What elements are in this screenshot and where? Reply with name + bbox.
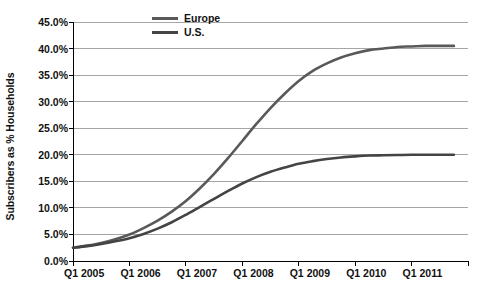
legend-label-us: U.S. (184, 27, 204, 38)
axis-ticks (69, 22, 468, 266)
legend-swatch-us (152, 31, 178, 34)
legend-item-europe[interactable]: Europe (152, 12, 238, 25)
legend-swatch-europe (152, 17, 178, 20)
gridlines (73, 22, 468, 234)
axis-lines (73, 22, 468, 261)
plot-area (0, 0, 477, 293)
data-series-lines (73, 46, 454, 248)
series-line-europe (73, 46, 454, 248)
legend-item-us[interactable]: U.S. (152, 26, 238, 39)
legend-label-europe: Europe (184, 13, 220, 24)
line-chart: Subscribers as % Households 45.0%40.0%35… (0, 0, 477, 293)
chart-legend: Europe U.S. (152, 12, 238, 42)
